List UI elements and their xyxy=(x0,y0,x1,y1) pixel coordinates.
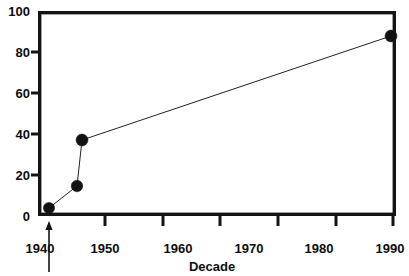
y-tick-label-20: 20 xyxy=(16,168,30,183)
y-tick-label-100: 100 xyxy=(8,4,30,19)
x-axis-tick-labels: 1940 1950 1960 1970 1980 1990 xyxy=(26,241,405,256)
plot-area-background xyxy=(38,11,396,216)
x-tick-label-1980: 1980 xyxy=(305,241,334,256)
data-point[interactable] xyxy=(43,202,54,213)
x-tick-label-1960: 1960 xyxy=(164,241,193,256)
y-tick-label-40: 40 xyxy=(16,127,30,142)
x-tick-label-1970: 1970 xyxy=(235,241,264,256)
x-axis-ticks xyxy=(105,215,393,226)
chart-container: 100 80 60 40 20 0 1940 1950 1960 1970 19… xyxy=(0,0,409,276)
data-point[interactable] xyxy=(76,134,88,146)
x-tick-label-1940: 1940 xyxy=(26,241,55,256)
y-axis-tick-labels: 100 80 60 40 20 0 xyxy=(8,4,30,224)
x-axis-title: Decade xyxy=(189,259,235,274)
data-point[interactable] xyxy=(385,30,397,42)
data-point[interactable] xyxy=(71,180,83,192)
x-tick-label-1990: 1990 xyxy=(376,241,405,256)
y-tick-label-60: 60 xyxy=(16,86,30,101)
y-tick-label-0: 0 xyxy=(23,209,30,224)
y-tick-label-80: 80 xyxy=(16,45,30,60)
x-tick-label-1950: 1950 xyxy=(91,241,120,256)
line-chart: 100 80 60 40 20 0 1940 1950 1960 1970 19… xyxy=(0,0,409,276)
